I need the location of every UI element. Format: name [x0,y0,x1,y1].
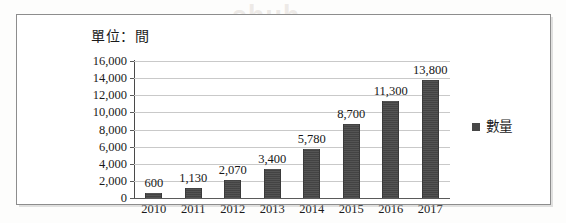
y-axis-tick [130,61,134,62]
gridline [134,78,450,79]
y-axis-tick [130,112,134,113]
x-axis-label: 2017 [418,203,443,216]
bar [382,101,399,198]
y-axis-tick [130,164,134,165]
gridline [134,61,450,62]
bar-value-label: 1,130 [179,172,207,185]
gridline [134,147,450,148]
bar [303,149,320,198]
chart-unit-title: 單位：間 [91,29,149,45]
y-axis-label: 8,000 [99,124,127,136]
x-axis-label: 2016 [378,203,403,216]
y-axis-label: 2,000 [99,175,127,187]
y-axis-tick [130,147,134,148]
bar [264,169,281,198]
y-axis-label: 0 [121,192,127,204]
bar-value-label: 11,300 [374,85,408,98]
y-axis-label: 16,000 [93,55,127,67]
chart-frame: 單位：間 02,0004,0006,0008,00010,00012,00014… [16,14,551,205]
y-axis-label: 12,000 [93,89,127,101]
y-axis-tick [130,78,134,79]
bar-value-label: 8,700 [337,108,365,121]
x-axis-label: 2015 [339,203,364,216]
y-axis-label: 6,000 [99,141,127,153]
y-axis-tick [130,181,134,182]
y-axis-tick [130,95,134,96]
chart-legend: 數量 [472,120,512,134]
x-axis-label: 2011 [181,203,206,216]
x-axis-line [134,198,450,199]
gridline [134,112,450,113]
gridline [134,164,450,165]
bar-value-label: 2,070 [219,164,247,177]
x-axis-label: 2014 [299,203,324,216]
bar-value-label: 600 [144,177,163,190]
y-axis-label: 14,000 [93,72,127,84]
bar [145,193,162,198]
bar-value-label: 13,800 [413,64,447,77]
bar-value-label: 3,400 [258,153,286,166]
x-axis-label: 2013 [260,203,285,216]
plot-area: 02,0004,0006,0008,00010,00012,00014,0001… [134,61,450,198]
bar-value-label: 5,780 [298,133,326,146]
legend-swatch-icon [472,123,480,131]
bar [185,188,202,198]
bar [343,124,360,198]
x-axis-label: 2010 [141,203,166,216]
bar [224,180,241,198]
y-axis-label: 4,000 [99,158,127,170]
gridline [134,130,450,131]
legend-label: 數量 [486,120,512,134]
y-axis-tick [130,130,134,131]
y-axis-tick [130,198,134,199]
bar [422,80,439,198]
x-axis-label: 2012 [220,203,245,216]
scanned-page: shuh 單位：間 02,0004,0006,0008,00010,00012,… [0,0,566,223]
y-axis-label: 10,000 [93,106,127,118]
